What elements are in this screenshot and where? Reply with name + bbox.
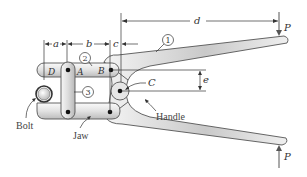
svg-text:Handle: Handle: [156, 111, 185, 122]
bolt: [36, 86, 52, 102]
point-c-label: C: [148, 77, 156, 88]
svg-text:P: P: [283, 151, 291, 162]
point-d-label: D: [47, 67, 55, 77]
bolt-cutter-diagram: a b c d e D A B C 1 2 3 P P Bolt: [0, 0, 307, 177]
pin-a-upper: [66, 68, 71, 73]
dim-c-label: c: [113, 38, 119, 49]
pin-c: [118, 89, 123, 94]
dim-d-label: d: [194, 15, 200, 26]
dim-e-label: e: [203, 74, 209, 85]
svg-text:P: P: [283, 22, 291, 33]
lower-jaw: [37, 103, 120, 119]
pin-a-lower: [66, 110, 71, 115]
svg-text:Jaw: Jaw: [73, 130, 89, 141]
point-b-label: B: [97, 66, 105, 76]
svg-text:1: 1: [165, 36, 170, 45]
handle-body: [104, 36, 288, 145]
c-leader: [126, 83, 146, 89]
svg-text:3: 3: [85, 88, 90, 97]
load-p-top: P: [276, 12, 291, 36]
load-p-bottom: P: [276, 145, 291, 168]
point-a-label: A: [76, 67, 84, 77]
svg-text:2: 2: [82, 54, 87, 63]
svg-text:Bolt: Bolt: [16, 120, 33, 131]
callout-jaw: Jaw: [73, 116, 91, 141]
callout-bolt: Bolt: [16, 98, 36, 131]
dim-b-label: b: [86, 38, 92, 49]
dim-a-label: a: [53, 38, 59, 49]
member-3-marker: 3: [74, 87, 94, 98]
